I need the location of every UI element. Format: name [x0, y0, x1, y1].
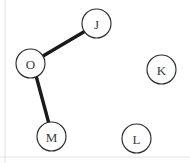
- node-k-label: K: [157, 63, 167, 78]
- edge-o-j[interactable]: [43, 32, 85, 57]
- node-o[interactable]: O: [16, 49, 45, 78]
- node-l-label: L: [133, 132, 141, 147]
- edge-layer: [37, 32, 85, 123]
- node-m[interactable]: M: [37, 122, 66, 151]
- graph-diagram-canvas: J O M K L: [0, 0, 190, 163]
- node-layer: J O M K L: [16, 9, 176, 153]
- node-m-label: M: [46, 130, 58, 145]
- edge-o-m[interactable]: [37, 78, 49, 123]
- node-l[interactable]: L: [122, 124, 151, 153]
- node-o-label: O: [26, 57, 35, 72]
- graph-svg: J O M K L: [0, 0, 190, 163]
- node-k[interactable]: K: [147, 55, 176, 84]
- node-j-label: J: [94, 17, 99, 32]
- node-j[interactable]: J: [82, 9, 111, 38]
